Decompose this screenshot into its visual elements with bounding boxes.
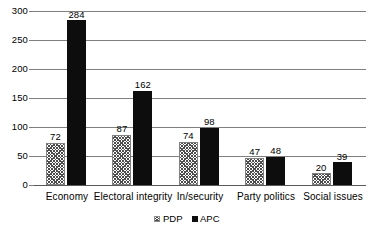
bar-value-pdp-social-issues: 20 xyxy=(304,163,339,173)
bar-value-apc-economy: 284 xyxy=(59,10,94,20)
bar-pdp-economy[interactable] xyxy=(46,143,65,185)
y-tick-label-250: 250 xyxy=(0,35,28,45)
bar-pdp-social-issues[interactable] xyxy=(312,173,331,185)
legend: PDP APC xyxy=(0,213,374,224)
y-tick-label-50: 50 xyxy=(0,151,28,161)
y-tick-label-300: 300 xyxy=(0,6,28,16)
bar-pdp-party-politics[interactable] xyxy=(245,158,264,185)
bar-value-apc-insecurity: 98 xyxy=(192,117,227,127)
bar-group-party-politics: 47 48 xyxy=(233,11,299,185)
x-tick-label-social-issues: Social issues xyxy=(280,191,374,203)
y-tick-label-0: 0 xyxy=(0,180,28,190)
bar-group-insecurity: 74 98 xyxy=(167,11,233,185)
bar-chart: 300 250 200 150 100 50 0 72 284 xyxy=(0,0,374,234)
y-tick-label-200: 200 xyxy=(0,64,28,74)
bar-apc-party-politics[interactable] xyxy=(266,157,285,185)
bar-apc-electoral-integrity[interactable] xyxy=(133,91,152,185)
bar-value-pdp-economy: 72 xyxy=(38,132,73,142)
legend-swatch-apc-icon xyxy=(192,216,198,222)
bar-value-pdp-insecurity: 74 xyxy=(171,131,206,141)
bar-pdp-electoral-integrity[interactable] xyxy=(112,135,131,186)
bar-group-social-issues: 20 39 xyxy=(300,11,366,185)
bar-value-apc-electoral-integrity: 162 xyxy=(125,80,160,90)
y-tick-label-100: 100 xyxy=(0,122,28,132)
y-tick-label-150: 150 xyxy=(0,93,28,103)
bar-group-electoral-integrity: 87 162 xyxy=(100,11,166,185)
bar-apc-economy[interactable] xyxy=(67,20,86,185)
legend-swatch-pdp-icon xyxy=(154,216,160,222)
bar-group-economy: 72 284 xyxy=(34,11,100,185)
bar-value-pdp-electoral-integrity: 87 xyxy=(104,124,139,134)
legend-label-apc: APC xyxy=(200,213,220,224)
bar-pdp-insecurity[interactable] xyxy=(179,142,198,185)
plot-area: 72 284 87 162 74 98 47 48 20 xyxy=(34,11,366,185)
legend-item-pdp[interactable]: PDP xyxy=(154,213,182,224)
bar-value-apc-party-politics: 48 xyxy=(258,146,293,156)
legend-label-pdp: PDP xyxy=(163,213,183,224)
legend-item-apc[interactable]: APC xyxy=(192,213,220,224)
bar-value-apc-social-issues: 39 xyxy=(325,152,360,162)
axis-baseline xyxy=(34,185,366,186)
